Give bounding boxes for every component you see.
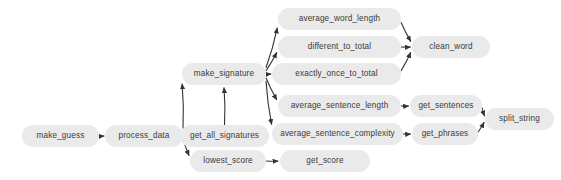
node-split_string[interactable]: split_string xyxy=(485,108,554,130)
node-label: make_guess xyxy=(37,125,85,147)
node-average_word_length[interactable]: average_word_length xyxy=(278,8,401,30)
node-get_sentences[interactable]: get_sentences xyxy=(410,95,482,117)
node-average_sentence_length[interactable]: average_sentence_length xyxy=(278,95,401,117)
edge-exactly_once_to_total-to-clean_word xyxy=(401,52,411,71)
node-label: split_string xyxy=(499,108,540,130)
edge-make_signature-to-average_word_length xyxy=(266,28,277,68)
edge-average_word_length-to-clean_word xyxy=(401,22,411,41)
node-get_phrases[interactable]: get_phrases xyxy=(412,123,478,145)
node-label: lowest_score xyxy=(203,150,253,172)
node-label: clean_word xyxy=(429,36,472,58)
node-lowest_score[interactable]: lowest_score xyxy=(190,150,266,172)
node-label: get_sentences xyxy=(418,95,473,117)
edge-get_all_signatures-to-make_signature xyxy=(224,88,225,126)
node-label: get_score xyxy=(306,150,343,172)
node-make_signature[interactable]: make_signature xyxy=(182,63,266,85)
node-label: get_all_signatures xyxy=(190,125,259,147)
node-clean_word[interactable]: clean_word xyxy=(412,36,490,58)
node-label: process_data xyxy=(119,125,170,147)
node-label: average_word_length xyxy=(299,8,381,30)
node-label: get_phrases xyxy=(422,123,469,145)
edge-make_signature-to-average_sentence_complexity xyxy=(266,81,272,125)
node-label: average_sentence_length xyxy=(291,95,389,117)
node-get_all_signatures[interactable]: get_all_signatures xyxy=(180,125,269,147)
node-different_to_total[interactable]: different_to_total xyxy=(278,36,401,58)
node-process_data[interactable]: process_data xyxy=(105,125,183,147)
node-label: exactly_once_to_total xyxy=(295,63,377,85)
node-label: different_to_total xyxy=(308,36,372,58)
node-get_score[interactable]: get_score xyxy=(280,150,370,172)
node-make_guess[interactable]: make_guess xyxy=(22,125,99,147)
node-label: average_sentence_complexity xyxy=(280,123,395,145)
edge-get_sentences-to-split_string xyxy=(482,108,485,117)
edge-process_data-to-make_signature xyxy=(182,84,183,129)
edge-get_phrases-to-split_string xyxy=(478,122,484,132)
node-average_sentence_complexity[interactable]: average_sentence_complexity xyxy=(272,123,403,145)
node-label: make_signature xyxy=(194,63,254,85)
call-graph-diagram: make_guessprocess_dataget_all_signatures… xyxy=(0,0,561,180)
node-exactly_once_to_total[interactable]: exactly_once_to_total xyxy=(272,63,401,85)
